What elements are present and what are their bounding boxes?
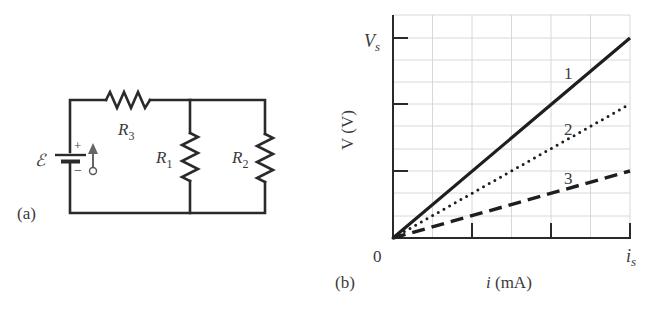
r2-label: R2 <box>231 148 248 171</box>
x-max-label: is <box>626 246 636 269</box>
figure: + − ℰ R3 R1 R2 (a) <box>0 0 658 317</box>
wire-top <box>150 100 265 134</box>
circuit-diagram <box>70 92 273 213</box>
panel-b-label: (b) <box>335 273 355 292</box>
curve-label-1: 1 <box>564 64 573 83</box>
current-arrow-icon <box>88 143 98 175</box>
battery-minus-sign: − <box>74 163 82 178</box>
r1-label: R1 <box>155 148 172 171</box>
y-axis-label: V (V) <box>338 110 357 150</box>
x-axis-label: i (mA) <box>486 273 532 292</box>
resistor-r3 <box>106 92 150 108</box>
resistor-r1 <box>182 133 198 181</box>
origin-label: 0 <box>373 247 382 266</box>
battery-plus-sign: + <box>74 138 81 153</box>
emf-symbol: ℰ <box>35 151 47 170</box>
r3-label: R3 <box>117 120 134 143</box>
curve-label-2: 2 <box>564 120 573 139</box>
panel-a-label: (a) <box>17 204 36 223</box>
resistor-r2 <box>257 134 273 182</box>
curve-label-3: 3 <box>564 169 573 188</box>
y-max-label: Vs <box>364 31 380 54</box>
